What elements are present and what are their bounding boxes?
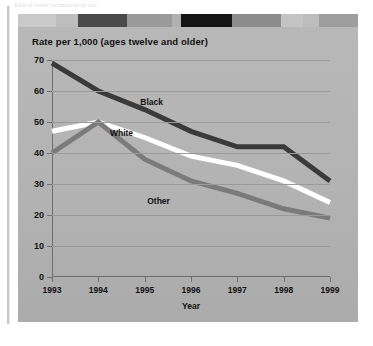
x-axis-title: Year: [52, 301, 330, 311]
figure-root: Rates of violent victimization by race R…: [0, 0, 373, 346]
x-tick-1998: [284, 277, 285, 282]
x-tick-1995: [145, 277, 146, 282]
series-lines: [52, 60, 330, 277]
x-tick-1997: [237, 277, 238, 282]
deco-block-3: [127, 14, 172, 27]
y-tick-label-60: 60: [34, 86, 44, 96]
series-line-other: [52, 122, 330, 218]
x-tick-label-1995: 1995: [135, 285, 154, 295]
y-tick-label-70: 70: [34, 55, 44, 65]
gridline-40: [52, 153, 330, 154]
x-tick-1999: [330, 277, 331, 282]
gridline-30: [52, 184, 330, 185]
y-tick-label-40: 40: [34, 148, 44, 158]
x-tick-label-1993: 1993: [43, 285, 62, 295]
deco-block-9: [319, 14, 358, 27]
deco-block-1: [56, 14, 78, 27]
chart-title: Rate per 1,000 (ages twelve and older): [32, 36, 208, 47]
figure-caption-top: Rates of violent victimization by race: [14, 0, 224, 11]
y-tick-10: [47, 246, 52, 247]
y-tick-40: [47, 153, 52, 154]
gridline-70: [52, 60, 330, 61]
y-tick-20: [47, 215, 52, 216]
decorative-color-band: [18, 14, 358, 27]
y-tick-60: [47, 91, 52, 92]
gridline-20: [52, 215, 330, 216]
x-tick-label-1994: 1994: [89, 285, 108, 295]
gridline-60: [52, 91, 330, 92]
x-tick-1993: [52, 277, 53, 282]
y-tick-label-0: 0: [39, 272, 44, 282]
deco-block-6: [232, 14, 281, 27]
series-label-white: White: [110, 128, 133, 138]
y-tick-70: [47, 60, 52, 61]
deco-block-0: [18, 14, 56, 27]
y-tick-label-50: 50: [34, 117, 44, 127]
deco-block-2: [78, 14, 127, 27]
deco-block-5: [181, 14, 232, 27]
y-tick-30: [47, 184, 52, 185]
y-tick-50: [47, 122, 52, 123]
series-label-other: Other: [147, 196, 170, 206]
x-tick-label-1998: 1998: [274, 285, 293, 295]
x-tick-label-1996: 1996: [182, 285, 201, 295]
left-margin-rule: [7, 6, 9, 324]
x-tick-1996: [191, 277, 192, 282]
y-tick-label-20: 20: [34, 210, 44, 220]
chart-panel: Rate per 1,000 (ages twelve and older) Y…: [18, 14, 358, 322]
y-tick-label-10: 10: [34, 241, 44, 251]
deco-block-7: [281, 14, 303, 27]
x-tick-label-1999: 1999: [321, 285, 340, 295]
plot-area: Year 01020304050607019931994199519961997…: [52, 60, 330, 277]
deco-block-8: [303, 14, 319, 27]
gridline-50: [52, 122, 330, 123]
deco-block-4: [172, 14, 181, 27]
series-label-black: Black: [140, 97, 163, 107]
series-line-white: [52, 122, 330, 203]
x-tick-1994: [98, 277, 99, 282]
y-tick-label-30: 30: [34, 179, 44, 189]
x-tick-label-1997: 1997: [228, 285, 247, 295]
gridline-10: [52, 246, 330, 247]
